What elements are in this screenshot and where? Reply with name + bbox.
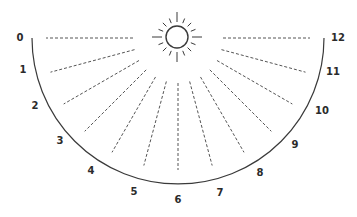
hour-label-0: 0 (17, 33, 24, 43)
hour-line-1 (50, 50, 134, 73)
hour-line-7 (190, 81, 213, 165)
hour-line-9 (210, 70, 272, 132)
sun-ray (188, 48, 192, 52)
hour-label-5: 5 (131, 187, 138, 197)
hour-line-3 (85, 70, 147, 132)
hour-label-12: 12 (331, 33, 345, 43)
hour-label-8: 8 (257, 168, 264, 178)
sun-ray (169, 51, 171, 56)
hour-line-5 (144, 81, 167, 165)
hour-label-11: 11 (326, 67, 340, 77)
hour-label-2: 2 (32, 101, 39, 111)
sun-icon (152, 12, 202, 62)
sundial-graphic (0, 0, 357, 217)
sun-ray (159, 29, 164, 31)
sun-ray (191, 29, 196, 31)
hour-label-3: 3 (57, 136, 64, 146)
hour-line-10 (217, 61, 292, 105)
sun-ray (188, 23, 192, 27)
sun-ray (163, 48, 167, 52)
hour-line-4 (112, 77, 156, 152)
sun-ray (163, 23, 167, 27)
sundial-diagram: 0 1 2 3 4 5 6 7 8 9 10 11 12 (0, 0, 357, 217)
sun-ray (191, 43, 196, 45)
sun-ray (183, 51, 185, 56)
hour-label-4: 4 (88, 166, 95, 176)
hour-label-6: 6 (175, 195, 182, 205)
hour-line-2 (64, 61, 139, 105)
hour-label-9: 9 (292, 140, 299, 150)
sun-ray (159, 43, 164, 45)
sun-ray (183, 19, 185, 24)
sun-ray (169, 19, 171, 24)
hour-label-10: 10 (315, 106, 329, 116)
hour-label-7: 7 (217, 188, 224, 198)
sun-disc (166, 26, 188, 48)
hour-line-11 (221, 50, 305, 73)
hour-label-1: 1 (20, 65, 27, 75)
hour-lines (46, 38, 310, 170)
hour-line-8 (201, 77, 245, 152)
